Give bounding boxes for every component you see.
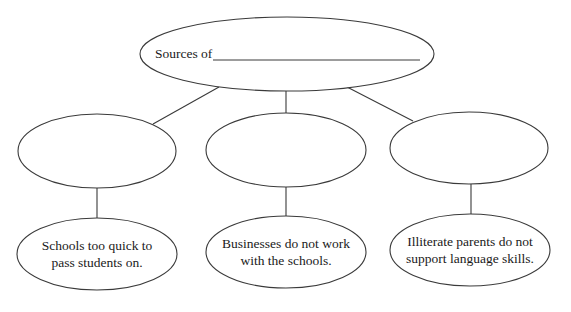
leaf-left-line1: Schools too quick to: [17, 237, 177, 254]
connector-root-left: [153, 87, 219, 124]
connector-root-right: [347, 87, 413, 121]
leaf-center-line2: with the schools.: [206, 252, 366, 269]
middle-node-left[interactable]: [18, 114, 176, 188]
leaf-left-line2: pass students on.: [17, 254, 177, 271]
leaf-label-left: Schools too quick to pass students on.: [17, 237, 177, 271]
leaf-center-line1: Businesses do not work: [206, 235, 366, 252]
middle-node-right[interactable]: [390, 112, 548, 184]
leaf-label-right: Illiterate parents do not support langua…: [390, 233, 550, 267]
middle-node-center[interactable]: [206, 113, 366, 187]
leaf-right-line1: Illiterate parents do not: [390, 233, 550, 250]
leaf-label-center: Businesses do not work with the schools.: [206, 235, 366, 269]
leaf-right-line2: support language skills.: [390, 250, 550, 267]
root-label: Sources of: [155, 45, 212, 62]
